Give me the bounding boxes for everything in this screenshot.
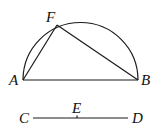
label-C: C <box>19 110 30 126</box>
label-A: A <box>8 72 19 88</box>
label-D: D <box>131 110 143 126</box>
label-B: B <box>141 72 150 88</box>
geometry-diagram: A B F C D E <box>0 0 162 136</box>
segment-AF <box>23 25 57 80</box>
label-E: E <box>71 100 81 116</box>
label-F: F <box>45 9 56 25</box>
segment-FB <box>57 25 138 80</box>
